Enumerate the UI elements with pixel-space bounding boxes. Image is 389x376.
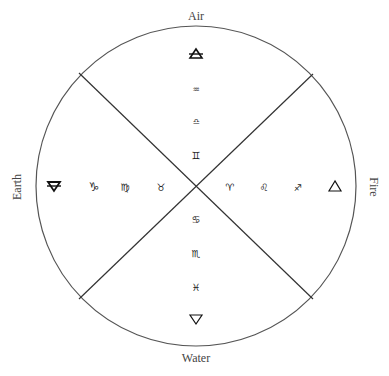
sagittarius-icon: ♐	[294, 183, 302, 193]
air-triangle-icon	[189, 49, 203, 58]
scorpio-icon: ♏	[192, 248, 201, 259]
libra-icon: ♎	[192, 117, 199, 126]
capricorn-icon: ♑	[89, 180, 100, 194]
earth-triangle-icon	[47, 182, 61, 191]
cancer-icon: ♋	[192, 214, 201, 225]
label-air: Air	[188, 9, 204, 23]
aries-icon: ♈	[226, 182, 235, 193]
aquarius-icon: ♒	[192, 85, 199, 94]
label-earth: Earth	[10, 174, 24, 200]
virgo-icon: ♍	[121, 182, 130, 193]
zodiac-element-wheel: Air Water Earth Fire ♒ ♎ ♊ ♑ ♍ ♉ ♈ ♌ ♐ ♋…	[0, 0, 389, 376]
water-triangle-icon	[190, 315, 202, 324]
label-fire: Fire	[367, 177, 381, 196]
label-water: Water	[182, 351, 210, 365]
gemini-icon: ♊	[192, 150, 201, 161]
fire-triangle-icon	[329, 181, 341, 191]
pisces-icon: ♓	[192, 282, 201, 293]
leo-icon: ♌	[260, 182, 269, 193]
taurus-icon: ♉	[157, 182, 166, 193]
